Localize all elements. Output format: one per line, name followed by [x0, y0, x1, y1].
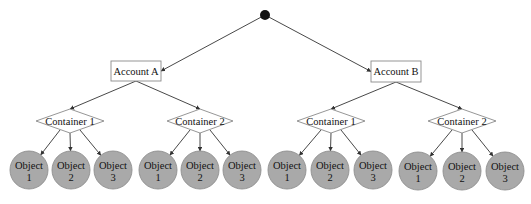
object-label: Object — [99, 160, 127, 171]
object-node[interactable]: Object3 — [94, 151, 132, 189]
container-label: Container 1 — [306, 116, 355, 127]
object-number: 1 — [155, 172, 160, 183]
object-node[interactable]: Object1 — [268, 151, 306, 189]
edge-container-to-object — [80, 130, 101, 155]
account-hierarchy-diagram: Account AContainer 1Object1Object2Object… — [0, 0, 531, 204]
edge-account-to-container — [70, 81, 136, 109]
edge-container-to-object — [472, 130, 493, 156]
object-node[interactable]: Object2 — [181, 151, 219, 189]
object-node[interactable]: Object2 — [52, 151, 90, 189]
object-node[interactable]: Object2 — [443, 152, 481, 190]
container-label: Container 1 — [45, 116, 94, 127]
object-number: 3 — [370, 172, 375, 183]
container-node[interactable]: Container 1 — [36, 109, 104, 133]
object-node[interactable]: Object1 — [10, 151, 48, 189]
edge-root-to-account — [161, 15, 265, 71]
container-node[interactable]: Container 2 — [428, 109, 496, 133]
object-label: Object — [57, 160, 85, 171]
root-node[interactable] — [260, 10, 270, 20]
object-label: Object — [316, 160, 344, 171]
nodes: Account AContainer 1Object1Object2Object… — [10, 10, 524, 190]
object-number: 3 — [239, 172, 244, 183]
edges — [41, 15, 493, 156]
edge-root-to-account — [265, 15, 371, 72]
edge-container-to-object — [330, 133, 331, 151]
edge-container-to-object — [170, 130, 190, 155]
object-number: 1 — [284, 172, 289, 183]
object-label: Object — [273, 160, 301, 171]
object-number: 2 — [68, 172, 73, 183]
object-number: 3 — [502, 173, 507, 184]
account-node-a[interactable]: Account A — [111, 61, 161, 81]
object-node[interactable]: Object3 — [354, 151, 392, 189]
object-label: Object — [359, 160, 387, 171]
object-node[interactable]: Object1 — [139, 151, 177, 189]
edge-account-to-container — [136, 81, 200, 109]
edge-account-to-container — [396, 82, 462, 109]
account-node-b[interactable]: Account B — [371, 61, 421, 82]
edge-container-to-object — [341, 130, 361, 155]
object-label: Object — [448, 161, 476, 172]
object-number: 3 — [110, 172, 115, 183]
object-number: 1 — [415, 173, 420, 184]
object-label: Object — [144, 160, 172, 171]
object-number: 2 — [197, 172, 202, 183]
object-node[interactable]: Object2 — [311, 151, 349, 189]
object-node[interactable]: Object1 — [399, 152, 437, 190]
object-label: Object — [491, 161, 519, 172]
account-label: Account A — [113, 66, 159, 77]
object-label: Object — [15, 160, 43, 171]
container-label: Container 2 — [175, 116, 224, 127]
object-number: 2 — [459, 173, 464, 184]
edge-container-to-object — [210, 130, 230, 155]
container-label: Container 2 — [437, 116, 486, 127]
object-number: 1 — [26, 172, 31, 183]
object-label: Object — [404, 161, 432, 172]
account-label: Account B — [373, 66, 418, 77]
edge-container-to-object — [70, 133, 71, 151]
object-node[interactable]: Object3 — [486, 152, 524, 190]
object-label: Object — [228, 160, 256, 171]
container-node[interactable]: Container 2 — [167, 109, 233, 133]
container-node[interactable]: Container 1 — [297, 109, 365, 133]
edge-account-to-container — [331, 82, 396, 109]
edge-container-to-object — [430, 130, 452, 156]
object-label: Object — [186, 160, 214, 171]
edge-container-to-object — [299, 130, 321, 156]
object-number: 2 — [327, 172, 332, 183]
edge-container-to-object — [41, 130, 60, 155]
object-node[interactable]: Object3 — [223, 151, 261, 189]
